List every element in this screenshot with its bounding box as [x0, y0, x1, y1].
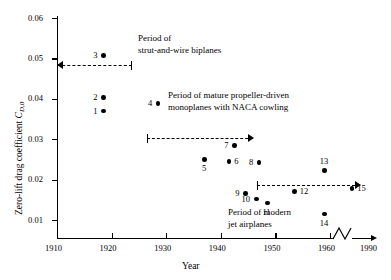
y-ticklabel-0.06: 0.06 — [28, 14, 43, 23]
data-point-label: 2 — [93, 93, 97, 102]
data-point — [101, 109, 106, 114]
annotation-period-monoplanes: Period of mature propeller-driven monopl… — [168, 90, 289, 113]
y-axis-symbol: C — [14, 112, 24, 118]
period-bar-strut-wire — [57, 61, 132, 70]
annotation-line-1: Period of mature propeller-driven — [168, 90, 289, 102]
data-point — [101, 95, 106, 100]
data-point-label: 10 — [241, 195, 250, 204]
x-tick-1910 — [57, 233, 58, 238]
annotation-line-2: monoplanes with NACA cowling — [168, 102, 289, 114]
data-point — [350, 186, 355, 191]
y-ticklabel-0.04: 0.04 — [28, 94, 43, 103]
annotation-line-1: Period of — [138, 33, 221, 45]
y-ticklabel-0.02: 0.02 — [28, 175, 43, 184]
x-tick-1920 — [112, 233, 113, 238]
data-point — [322, 212, 327, 217]
data-point-label: 15 — [357, 184, 366, 193]
y-ticklabel-0.01: 0.01 — [28, 216, 43, 225]
x-ticklabel-1940: 1940 — [209, 244, 226, 253]
data-point-label: 7 — [224, 141, 228, 150]
period-bar-jet — [257, 181, 360, 190]
data-point-label: 11 — [262, 208, 270, 217]
x-tick-1940 — [221, 233, 222, 238]
x-ticklabel-1960: 1960 — [318, 244, 335, 253]
data-point-label: 1 — [93, 107, 97, 116]
period-bar-dashes — [147, 138, 253, 139]
y-axis-line — [57, 16, 58, 239]
y-axis-title-text: Zero-lift drag coefficient — [14, 118, 24, 215]
data-point — [156, 101, 161, 106]
y-axis-title: Zero-lift drag coefficient CD,0 — [14, 102, 26, 215]
y-tick-0.05 — [52, 58, 57, 59]
period-bar-right-cap — [131, 61, 132, 70]
annotation-period-strut-wire: Period of strut-and-wire biplanes — [138, 33, 221, 56]
axis-break-icon — [332, 226, 354, 242]
data-point — [322, 168, 327, 173]
annotation-line-2: jet airplanes — [228, 219, 291, 231]
annotation-line-1: Period of modern — [228, 207, 291, 219]
y-ticklabel-0.03: 0.03 — [28, 135, 43, 144]
x-ticklabel-1930: 1930 — [154, 244, 171, 253]
data-point — [257, 160, 262, 165]
x-ticklabel-1910: 1910 — [45, 244, 62, 253]
data-point-label: 8 — [249, 158, 253, 167]
data-point-label: 13 — [320, 157, 329, 166]
y-tick-0.04 — [52, 99, 57, 100]
data-point-label: 14 — [320, 219, 329, 228]
annotation-period-jet: Period of modern jet airplanes — [228, 207, 291, 230]
y-axis-subscript: D,0 — [18, 102, 26, 112]
x-axis-line — [57, 238, 334, 239]
data-point-label: 12 — [300, 187, 309, 196]
data-point-label: 6 — [234, 157, 238, 166]
period-bar-dashes — [257, 185, 360, 186]
chart-figure: 0.06 0.05 0.04 0.03 0.02 0.01 1910 1920 … — [0, 0, 391, 280]
x-axis-line-after-break — [352, 238, 372, 239]
data-point — [202, 157, 207, 162]
period-bar-right-arrowhead — [248, 134, 254, 142]
period-bar-left-cap — [257, 181, 258, 190]
y-tick-0.02 — [52, 180, 57, 181]
y-tick-0.03 — [52, 139, 57, 140]
annotation-line-2: strut-and-wire biplanes — [138, 45, 221, 57]
y-tick-0.01 — [52, 220, 57, 221]
period-bar-monoplanes — [147, 134, 253, 143]
period-bar-left-arrowhead — [57, 61, 63, 69]
data-point — [232, 143, 237, 148]
x-tick-1960 — [330, 233, 331, 238]
data-point-label: 3 — [93, 51, 97, 60]
x-ticklabel-1990: 1990 — [360, 244, 377, 253]
data-point-label: 5 — [202, 164, 206, 173]
y-ticklabel-0.05: 0.05 — [28, 54, 43, 63]
data-point — [254, 197, 259, 202]
x-axis-arrowhead — [371, 235, 377, 241]
period-bar-dashes — [57, 65, 132, 66]
x-ticklabel-1920: 1920 — [100, 244, 117, 253]
data-point — [227, 159, 232, 164]
x-tick-1950 — [275, 233, 276, 238]
data-point — [292, 189, 297, 194]
y-tick-0.06 — [52, 18, 57, 19]
x-axis-title: Year — [182, 261, 200, 271]
x-tick-1930 — [166, 233, 167, 238]
data-point-label: 4 — [148, 99, 152, 108]
data-point-label: 9 — [235, 189, 239, 198]
data-point — [265, 201, 270, 206]
x-ticklabel-1950: 1950 — [263, 244, 280, 253]
data-point — [101, 53, 106, 58]
period-bar-left-cap — [147, 134, 148, 143]
